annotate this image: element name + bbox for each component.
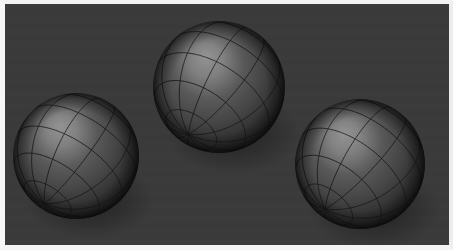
image-frame-border: [0, 0, 453, 250]
render-viewport: [0, 0, 453, 250]
